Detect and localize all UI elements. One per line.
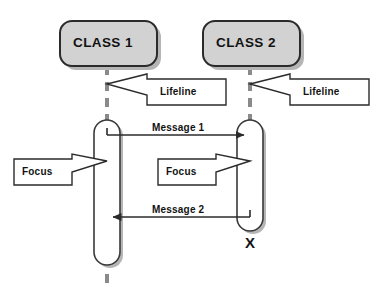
diagram-vector-layer — [0, 0, 385, 291]
class-box-class-1-label: CLASS 1 — [73, 35, 133, 50]
lifeline-callout-2-label: Lifeline — [303, 86, 340, 97]
message-1-label: Message 1 — [152, 122, 204, 133]
message-2-label: Message 2 — [152, 204, 204, 215]
activation-bar-class-1[interactable] — [94, 120, 120, 265]
lifeline-callout-1-label: Lifeline — [160, 86, 197, 97]
sequence-diagram-canvas: CLASS 1 CLASS 2 Message 1 Message 2 Life… — [0, 0, 385, 291]
focus-callout-2-label: Focus — [166, 166, 196, 177]
focus-callout-1-label: Focus — [22, 166, 52, 177]
activation-bars-group — [94, 120, 266, 268]
destruction-marker: X — [245, 234, 255, 251]
class-box-class-2-label: CLASS 2 — [216, 35, 276, 50]
